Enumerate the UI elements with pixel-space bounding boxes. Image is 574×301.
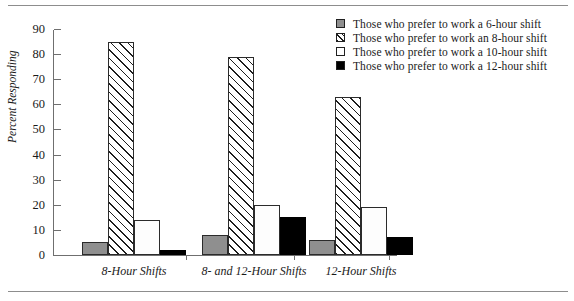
bar[interactable] <box>160 250 186 255</box>
bar[interactable] <box>361 207 387 255</box>
bar[interactable] <box>335 97 361 255</box>
x-axis-group-label: 8-Hour Shifts <box>101 264 166 279</box>
x-axis-group-label: 12-Hour Shifts <box>325 264 396 279</box>
y-tick-label: 0 <box>39 249 45 262</box>
y-tick-label: 90 <box>33 23 46 36</box>
legend-swatch-gray-icon <box>336 19 345 28</box>
bar-group: 8-Hour Shifts <box>82 30 186 255</box>
legend-item[interactable]: Those who prefer to work a 6-hour shift <box>336 17 547 30</box>
x-axis-line <box>53 255 397 256</box>
x-tick-mark <box>294 255 295 260</box>
y-axis-title: Percent Responding <box>6 50 18 143</box>
bar-group: 12-Hour Shifts <box>309 30 413 255</box>
y-tick-label: 10 <box>33 224 46 237</box>
y-tick-label: 50 <box>33 123 46 136</box>
legend-label: Those who prefer to work a 6-hour shift <box>353 18 541 30</box>
bar[interactable] <box>202 235 228 255</box>
y-tick-label: 70 <box>33 73 46 86</box>
top-divider-rule <box>8 5 568 6</box>
x-tick-mark <box>186 255 187 260</box>
bar[interactable] <box>108 42 134 255</box>
x-axis-group-label: 8- and 12-Hour Shifts <box>202 264 307 279</box>
bar-groups: 8-Hour Shifts8- and 12-Hour Shifts12-Hou… <box>54 30 389 255</box>
bar[interactable] <box>134 220 160 255</box>
bar-group: 8- and 12-Hour Shifts <box>202 30 306 255</box>
bar[interactable] <box>82 242 108 255</box>
y-tick-label: 30 <box>33 173 46 186</box>
y-tick-mark: 0 <box>54 255 61 256</box>
bar[interactable] <box>254 205 280 255</box>
bar[interactable] <box>387 237 413 255</box>
y-tick-label: 20 <box>33 199 46 212</box>
y-tick-label: 80 <box>33 48 46 61</box>
bar[interactable] <box>280 217 306 255</box>
bottom-divider-rule <box>8 291 568 292</box>
x-tick-mark <box>389 255 390 260</box>
plot-area: 0102030405060708090 8-Hour Shifts8- and … <box>53 30 389 256</box>
y-tick-label: 40 <box>33 148 46 161</box>
bar[interactable] <box>228 57 254 255</box>
y-tick-label: 60 <box>33 98 46 111</box>
bar[interactable] <box>309 240 335 255</box>
